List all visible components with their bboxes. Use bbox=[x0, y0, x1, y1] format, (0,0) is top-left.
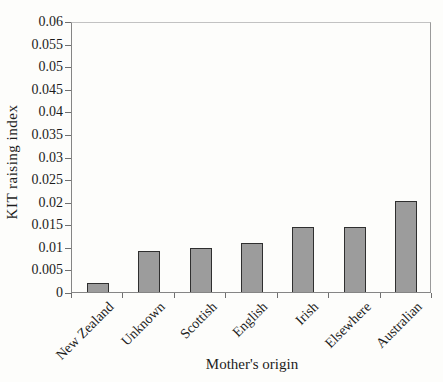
plot-area bbox=[71, 22, 431, 293]
y-axis-tick-label: 0.025 bbox=[17, 172, 63, 188]
x-axis-category-label: Irish bbox=[293, 299, 322, 328]
y-axis-tick-mark bbox=[65, 135, 71, 136]
x-axis-category-label: New Zealand bbox=[53, 299, 117, 363]
y-axis-tick-label: 0 bbox=[17, 285, 63, 301]
x-axis-tick-mark bbox=[174, 293, 175, 298]
y-axis-tick-label: 0.055 bbox=[17, 37, 63, 53]
bar-unknown bbox=[138, 251, 160, 292]
bar-chart-figure: KIT raising index Mother's origin 00.005… bbox=[0, 0, 443, 382]
y-axis-tick-mark bbox=[65, 180, 71, 181]
y-axis-tick-mark bbox=[65, 22, 71, 23]
x-axis-tick-mark bbox=[431, 293, 432, 298]
y-axis-tick-mark bbox=[65, 225, 71, 226]
x-axis-tick-mark bbox=[277, 293, 278, 298]
y-axis-tick-label: 0.05 bbox=[17, 59, 63, 75]
x-axis-tick-mark bbox=[225, 293, 226, 298]
bar-australian bbox=[395, 201, 417, 292]
x-axis-category-label: Unknown bbox=[118, 299, 168, 349]
x-axis-category-label: English bbox=[230, 299, 271, 340]
y-axis-tick-mark bbox=[65, 67, 71, 68]
y-axis-tick-mark bbox=[65, 90, 71, 91]
x-axis-category-label: Scottish bbox=[177, 299, 220, 342]
y-axis-tick-label: 0.02 bbox=[17, 195, 63, 211]
y-axis-tick-label: 0.045 bbox=[17, 82, 63, 98]
x-axis-tick-mark bbox=[71, 293, 72, 298]
y-axis-tick-label: 0.005 bbox=[17, 262, 63, 278]
bar-english bbox=[241, 243, 263, 292]
y-axis-tick-label: 0.04 bbox=[17, 104, 63, 120]
bar-irish bbox=[292, 227, 314, 292]
y-axis-tick-mark bbox=[65, 112, 71, 113]
y-axis-tick-label: 0.06 bbox=[17, 14, 63, 30]
x-axis-tick-mark bbox=[328, 293, 329, 298]
x-axis-category-label: Australian bbox=[373, 299, 425, 351]
y-axis-tick-mark bbox=[65, 158, 71, 159]
y-axis-tick-label: 0.035 bbox=[17, 127, 63, 143]
x-axis-tick-mark bbox=[122, 293, 123, 298]
bar-new-zealand bbox=[87, 283, 109, 292]
y-axis-tick-mark bbox=[65, 45, 71, 46]
bar-elsewhere bbox=[344, 227, 366, 292]
y-axis-tick-label: 0.015 bbox=[17, 217, 63, 233]
y-axis-tick-label: 0.01 bbox=[17, 240, 63, 256]
x-axis-title: Mother's origin bbox=[206, 356, 298, 373]
bar-scottish bbox=[190, 248, 212, 292]
x-axis-category-label: Elsewhere bbox=[322, 299, 374, 351]
y-axis-tick-mark bbox=[65, 248, 71, 249]
x-axis-tick-mark bbox=[380, 293, 381, 298]
y-axis-tick-mark bbox=[65, 203, 71, 204]
y-axis-tick-mark bbox=[65, 270, 71, 271]
y-axis-tick-label: 0.03 bbox=[17, 150, 63, 166]
